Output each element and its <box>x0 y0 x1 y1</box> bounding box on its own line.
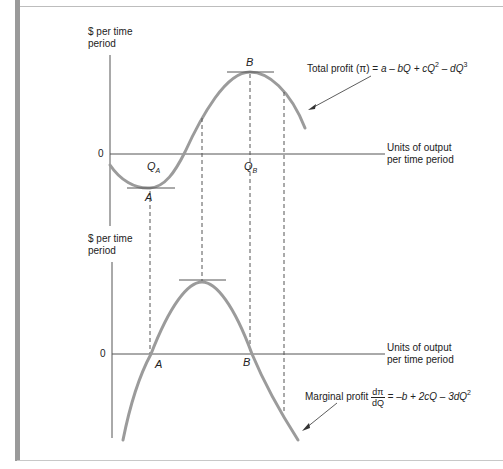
derivative-fraction: dπdQ <box>371 387 384 408</box>
bottom-y-axis-label-2: period <box>88 245 116 257</box>
bottom-zero-label: 0 <box>100 348 106 360</box>
bottom-y-axis-label-1: $ per time <box>88 233 132 245</box>
top-y-axis-label-1: $ per time <box>88 26 132 38</box>
bottom-x-axis-label-1: Units of output <box>387 342 451 354</box>
total-profit-label: Total profit (π) = a – bQ + cQ2 – dQ3 <box>307 59 467 75</box>
point-b-bottom: B <box>243 356 250 368</box>
marginal-profit-curve <box>123 282 298 440</box>
marginal-profit-label: Marginal profitdπdQ= –b + 2cQ – 3dQ2 <box>305 382 471 408</box>
q-b-label: QB <box>244 160 257 174</box>
top-y-axis-label-2: period <box>88 38 116 50</box>
point-a-bottom: A <box>155 358 162 370</box>
dashed-guides <box>150 74 284 414</box>
top-x-axis-label-1: Units of output <box>387 142 451 154</box>
q-a-label: QA <box>147 160 160 174</box>
top-x-axis-label-2: per time period <box>387 154 454 166</box>
bottom-x-axis-label-2: per time period <box>387 354 454 366</box>
total-profit-curve <box>110 72 305 188</box>
point-b-top: B <box>246 56 253 68</box>
point-a-top: A <box>145 191 152 203</box>
top-zero-label: 0 <box>98 148 104 160</box>
